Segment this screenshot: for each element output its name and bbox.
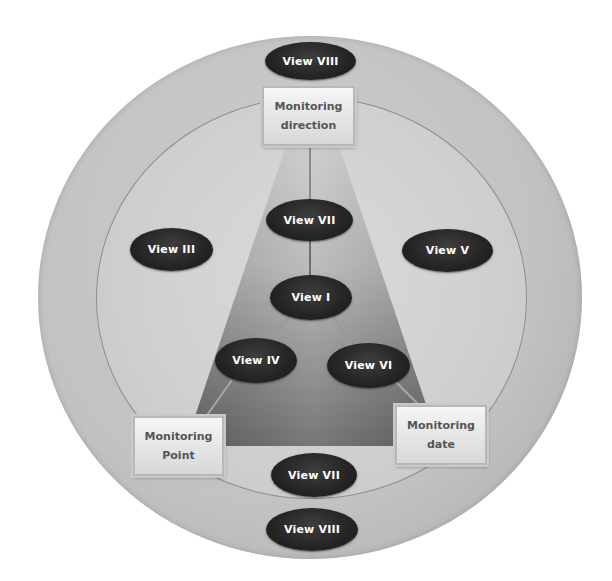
box-label-line1: Monitoring	[407, 416, 475, 435]
box-label-line2: direction	[281, 116, 336, 135]
view-viii-top: View VIII	[265, 42, 356, 80]
view-iv: View IV	[215, 338, 297, 383]
view-viii-bottom: View VIII	[266, 508, 358, 551]
view-vii-upper: View VII	[266, 199, 353, 241]
view-i: View I	[270, 275, 352, 320]
box-label-line1: Monitoring	[275, 97, 343, 116]
view-v: View V	[402, 229, 493, 272]
monitoring-direction-box: Monitoring direction	[262, 86, 355, 146]
box-label-line2: date	[427, 435, 455, 454]
monitoring-point-box: Monitoring Point	[133, 416, 224, 476]
box-label-line2: Point	[162, 446, 194, 465]
view-label: View III	[148, 243, 195, 256]
view-vii-bottom: View VII	[271, 453, 357, 497]
view-label: View VII	[288, 469, 340, 482]
view-label: View VIII	[284, 523, 340, 536]
box-label-line1: Monitoring	[145, 427, 213, 446]
view-vi: View VI	[327, 343, 410, 388]
view-label: View I	[292, 291, 331, 304]
view-label: View IV	[232, 354, 280, 367]
view-label: View V	[426, 244, 469, 257]
view-label: View VIII	[282, 55, 338, 68]
monitoring-date-box: Monitoring date	[395, 405, 487, 465]
view-iii: View III	[130, 228, 213, 271]
view-label: View VI	[345, 359, 393, 372]
monitoring-views-diagram: Monitoring direction Monitoring Point Mo…	[0, 0, 612, 581]
view-label: View VII	[284, 214, 336, 227]
